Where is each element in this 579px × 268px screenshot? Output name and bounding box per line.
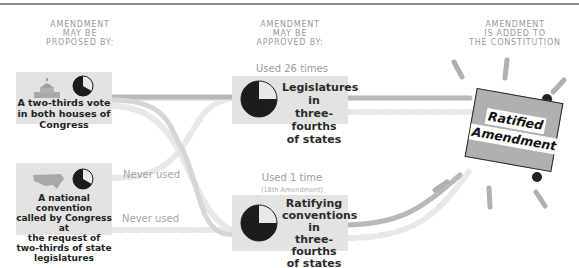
approval-card-conventions: Ratifying conventions in three-fourths o… bbox=[232, 195, 348, 251]
text-line: Legislatures in bbox=[282, 81, 346, 107]
usage-count-legislatures: Used 26 times bbox=[232, 63, 352, 74]
usage-note: (18th Amendment) bbox=[232, 186, 352, 194]
scroll-curl-bottom bbox=[532, 172, 542, 182]
text-line: two-thirds of state bbox=[16, 243, 112, 253]
never-used-label: Never used bbox=[123, 169, 180, 180]
pie-two-thirds-icon bbox=[72, 168, 94, 190]
approval-text: Ratifying conventions in three-fourths o… bbox=[282, 198, 346, 268]
approval-text: Legislatures in three-fourths of states bbox=[282, 81, 346, 146]
text-line: Congress bbox=[16, 119, 112, 130]
text-line: in both houses of bbox=[16, 108, 112, 119]
proposal-card-convention: A national convention called by Congress… bbox=[16, 163, 112, 235]
text-line: of states bbox=[282, 258, 346, 268]
text-line: A two-thirds vote bbox=[16, 97, 112, 108]
approval-card-legislatures: Legislatures in three-fourths of states bbox=[232, 76, 348, 124]
pie-three-fourths-icon bbox=[239, 203, 279, 243]
proposal-card-congress: A two-thirds vote in both houses of Cong… bbox=[16, 72, 112, 124]
text-line: A national convention bbox=[16, 193, 112, 213]
proposal-text: A two-thirds vote in both houses of Cong… bbox=[16, 97, 112, 130]
usage-count-conventions: Used 1 time bbox=[232, 172, 352, 183]
text-line: three-fourths bbox=[282, 234, 346, 258]
text-line: the request of bbox=[16, 233, 112, 243]
pie-two-thirds-icon bbox=[72, 75, 94, 97]
proposal-text: A national convention called by Congress… bbox=[16, 193, 112, 263]
never-used-label: Never used bbox=[122, 213, 179, 224]
us-map-icon bbox=[31, 171, 65, 191]
ratified-amendment-document: Ratified Amendment bbox=[465, 88, 564, 172]
pie-three-fourths-icon bbox=[239, 79, 279, 119]
text-line: called by Congress at bbox=[16, 213, 112, 233]
text-line: legislatures bbox=[16, 253, 112, 263]
ratified-label: Ratified Amendment bbox=[469, 105, 560, 155]
text-line: of states bbox=[282, 133, 346, 146]
text-line: three-fourths bbox=[282, 107, 346, 133]
text-line: conventions in bbox=[282, 210, 346, 234]
